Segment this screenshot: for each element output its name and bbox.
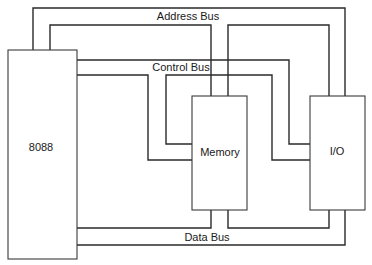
bus-diagram bbox=[0, 0, 372, 265]
io-label: I/O bbox=[330, 146, 345, 157]
memory-label: Memory bbox=[200, 147, 240, 158]
control-bus-label: Control Bus bbox=[152, 62, 209, 73]
cpu-8088-block bbox=[8, 50, 77, 259]
data-bus-cpu-to-memory-line bbox=[77, 210, 211, 228]
cpu-8088-label: 8088 bbox=[29, 142, 53, 153]
data-bus-memory-to-io-line bbox=[228, 210, 329, 228]
address-bus-label: Address Bus bbox=[157, 11, 219, 22]
data-bus-label: Data Bus bbox=[184, 232, 229, 243]
control-bus-cpu-to-memory-line bbox=[77, 75, 192, 160]
